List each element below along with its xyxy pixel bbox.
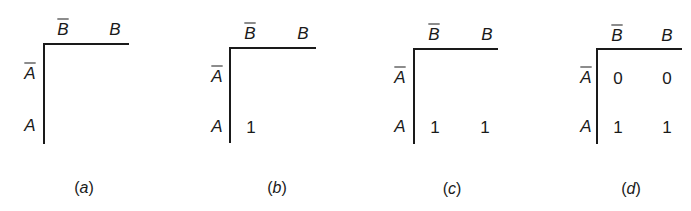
row-axis-line xyxy=(596,48,598,144)
panel-caption: (b) xyxy=(267,180,287,196)
col-header-b-bar: B xyxy=(428,26,439,43)
row-header-a: A xyxy=(580,118,591,135)
cell-a-b: 1 xyxy=(480,119,489,136)
column-axis-line xyxy=(596,48,682,50)
col-header-b-bar: B xyxy=(57,21,68,38)
row-header-a: A xyxy=(211,118,222,135)
panel-caption: (d) xyxy=(621,181,641,197)
col-header-b: B xyxy=(481,26,492,43)
cell-abar-bbar: 0 xyxy=(613,70,622,87)
cell-a-bbar: 1 xyxy=(430,119,439,136)
column-axis-line xyxy=(413,48,498,50)
row-header-a-bar: A xyxy=(394,69,405,86)
cell-abar-b: 0 xyxy=(662,70,671,87)
panel-caption: (c) xyxy=(443,181,462,197)
cell-a-b: 1 xyxy=(662,119,671,136)
row-header-a-bar: A xyxy=(580,69,591,86)
column-axis-line xyxy=(229,47,316,49)
row-axis-line xyxy=(43,43,45,144)
row-axis-line xyxy=(229,47,231,143)
row-header-a-bar: A xyxy=(211,68,222,85)
panel-caption: (a) xyxy=(74,180,94,196)
row-axis-line xyxy=(413,48,415,144)
row-header-a-bar: A xyxy=(24,65,35,82)
col-header-b-bar: B xyxy=(244,25,255,42)
cell-a-bbar: 1 xyxy=(246,119,255,136)
col-header-b-bar: B xyxy=(611,27,622,44)
cell-a-bbar: 1 xyxy=(613,119,622,136)
col-header-b: B xyxy=(661,27,672,44)
row-header-a: A xyxy=(394,118,405,135)
col-header-b: B xyxy=(297,25,308,42)
col-header-b: B xyxy=(109,21,120,38)
column-axis-line xyxy=(43,43,129,45)
row-header-a: A xyxy=(24,117,35,134)
